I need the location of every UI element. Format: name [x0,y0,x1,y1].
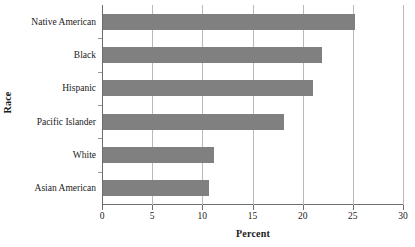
gridline [353,5,354,205]
y-axis-tick [98,172,102,173]
y-axis-tick [98,38,102,39]
gridline [403,5,404,205]
y-axis-tick [98,72,102,73]
y-axis-tick-label: Native American [31,17,96,27]
bar [103,47,322,63]
x-axis-tick-label: 30 [398,210,408,222]
y-axis-tick-label: White [73,150,96,160]
x-axis-tick-labels: 051015202530 [102,210,404,224]
bar-chart: Race Native AmericanBlackHispanicPacific… [0,0,415,247]
x-axis-tick-label: 5 [150,210,155,222]
bar [103,180,209,196]
y-axis-tick-label: Black [74,50,96,60]
x-axis-tick-label: 25 [348,210,358,222]
y-axis-line [102,5,103,205]
y-axis-tick [98,138,102,139]
gridline [202,5,203,205]
y-axis-tick-labels: Native AmericanBlackHispanicPacific Isla… [16,0,100,205]
x-axis-title: Percent [102,228,404,239]
gridline [303,5,304,205]
bar [103,147,214,163]
bar [103,80,313,96]
gridline [152,5,153,205]
y-axis-tick-label: Asian American [35,183,96,193]
y-axis-title-text: Race [3,92,14,114]
gridline [253,5,254,205]
x-axis-tick-label: 10 [198,210,208,222]
x-axis-tick-label: 15 [248,210,258,222]
x-axis-tick-label: 20 [298,210,308,222]
bar [103,114,284,130]
y-axis-tick-label: Pacific Islander [37,117,96,127]
y-axis-title: Race [0,0,16,205]
x-axis-tick-label: 0 [100,210,105,222]
y-axis-tick [98,105,102,106]
y-axis-tick-label: Hispanic [62,83,96,93]
bar [103,14,355,30]
plot-area [102,5,404,205]
